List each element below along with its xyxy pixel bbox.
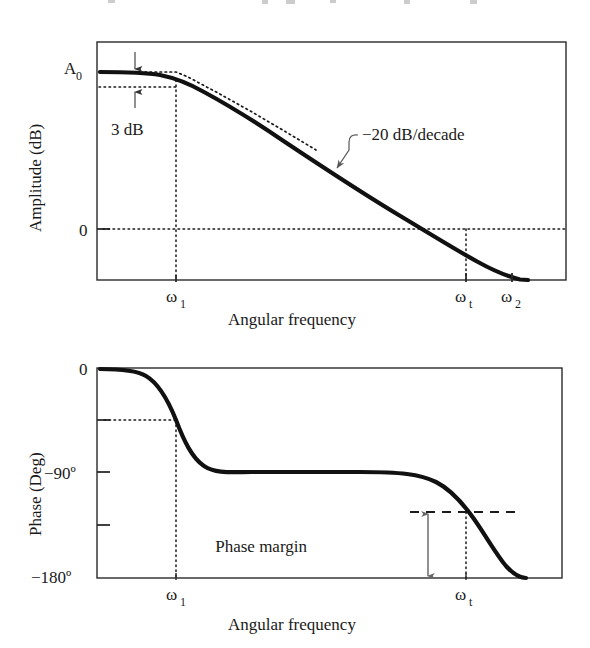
phase-xtick-omegat-subscript: t [469,595,473,609]
phase-plot: Phase (Deg) 0 −90º −180º [26,360,562,634]
amplitude-response-curve [100,72,528,280]
amplitude-xtick-omega1-base: ω [166,287,177,306]
phase-xtick-omega1-subscript: 1 [180,595,186,609]
amplitude-xtick-omegat-label: ω t [455,287,473,311]
amplitude-xtick-omegat-base: ω [455,287,466,306]
amplitude-ytick-a0: A 0 [64,59,82,83]
amplitude-y-axis-label: Amplitude (dB) [26,124,45,232]
amplitude-3db-label: 3 dB [111,120,144,139]
bode-plot-figure: Amplitude (dB) A 0 0 [0,0,590,648]
amplitude-xtick-omega2-label: ω 2 [501,287,521,311]
phase-margin-label: Phase margin [215,537,307,556]
figure-canvas: Amplitude (dB) A 0 0 [0,0,590,648]
page-top-cropped-text [108,0,477,4]
amplitude-xtick-omega2-subscript: 2 [515,297,521,311]
phase-ytick-minus180: −180º [31,568,71,587]
phase-xtick-omega1-label: ω 1 [166,585,186,609]
amplitude-x-axis-label: Angular frequency [228,310,356,329]
phase-ytick-minus90-label: −90º [44,464,76,483]
amplitude-xtick-omegat-subscript: t [469,297,473,311]
amplitude-xtick-omega2-base: ω [501,287,512,306]
phase-ytick-minus180-label: −180º [31,568,71,587]
amplitude-xtick-omega1-label: ω 1 [166,287,186,311]
amplitude-slope-annotation: −20 dB/decade [337,125,465,168]
amplitude-ytick-zero-label: 0 [79,221,88,240]
amplitude-plot: Amplitude (dB) A 0 0 [26,42,566,329]
amplitude-slope-label: −20 dB/decade [362,125,465,144]
phase-y-axis-label: Phase (Deg) [26,452,45,536]
phase-margin-annotation: Phase margin [215,514,428,576]
phase-x-axis-label: Angular frequency [228,615,356,634]
phase-response-curve [100,369,526,578]
phase-xtick-omegat-base: ω [455,585,466,604]
phase-xtick-omega1-base: ω [166,585,177,604]
phase-ytick-zero-label: 0 [79,360,88,379]
amplitude-ytick-zero: 0 [79,221,110,240]
amplitude-ytick-a0-subscript: 0 [76,69,82,83]
phase-ytick-minus90: −90º [44,464,110,483]
amplitude-xtick-omega1-subscript: 1 [180,297,186,311]
phase-xtick-omegat-label: ω t [455,585,473,609]
amplitude-3db-annotation: 3 dB [111,52,144,139]
